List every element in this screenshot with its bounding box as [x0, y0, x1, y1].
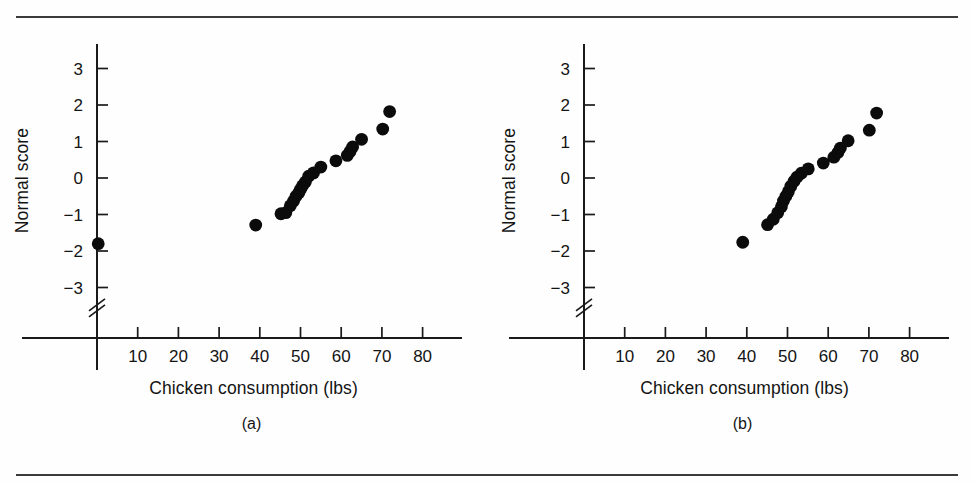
svg-text:60: 60 — [332, 347, 351, 366]
svg-text:−2: −2 — [551, 242, 570, 261]
svg-text:20: 20 — [169, 347, 188, 366]
svg-text:1: 1 — [561, 133, 570, 152]
data-point — [842, 134, 855, 147]
data-point — [870, 107, 883, 120]
svg-text:40: 40 — [737, 347, 756, 366]
svg-text:3: 3 — [561, 60, 570, 79]
svg-text:30: 30 — [697, 347, 716, 366]
data-point — [383, 105, 396, 118]
svg-text:10: 10 — [128, 347, 147, 366]
y-axis-label-a: Normal score — [12, 81, 33, 281]
svg-text:0: 0 — [74, 169, 83, 188]
svg-text:10: 10 — [615, 347, 634, 366]
svg-text:50: 50 — [778, 347, 797, 366]
data-point — [330, 154, 343, 167]
svg-text:0: 0 — [561, 169, 570, 188]
data-point — [802, 162, 815, 175]
data-point — [736, 236, 749, 249]
svg-text:3: 3 — [74, 60, 83, 79]
figure-normal-probability-plots: −3−2−101231020304050607080 Normal score … — [0, 0, 973, 483]
panel-b: −3−2−101231020304050607080 Normal score … — [487, 0, 973, 483]
panel-caption-b: (b) — [499, 415, 973, 433]
data-point — [249, 219, 262, 232]
svg-text:−3: −3 — [551, 279, 570, 298]
svg-text:40: 40 — [250, 347, 269, 366]
svg-text:1: 1 — [74, 133, 83, 152]
x-axis-label-a: Chicken consumption (lbs) — [10, 378, 497, 399]
scatter-plot-a: −3−2−101231020304050607080 — [0, 0, 487, 400]
svg-text:80: 80 — [900, 347, 919, 366]
panel-caption-a: (a) — [8, 415, 495, 433]
data-point — [863, 124, 876, 137]
svg-text:70: 70 — [372, 347, 391, 366]
svg-text:−1: −1 — [551, 206, 570, 225]
svg-text:2: 2 — [74, 96, 83, 115]
x-axis-label-b: Chicken consumption (lbs) — [501, 378, 973, 399]
data-point-group — [736, 107, 883, 249]
y-axis-label-b: Normal score — [499, 81, 520, 281]
svg-text:20: 20 — [656, 347, 675, 366]
svg-text:−3: −3 — [64, 279, 83, 298]
scatter-plot-b: −3−2−101231020304050607080 — [487, 0, 973, 400]
data-point — [376, 123, 389, 136]
data-point — [92, 237, 105, 250]
svg-text:30: 30 — [210, 347, 229, 366]
svg-text:80: 80 — [413, 347, 432, 366]
data-point-group — [92, 105, 396, 250]
svg-text:−1: −1 — [64, 206, 83, 225]
svg-text:−2: −2 — [64, 242, 83, 261]
svg-text:50: 50 — [291, 347, 310, 366]
svg-text:60: 60 — [819, 347, 838, 366]
svg-text:2: 2 — [561, 96, 570, 115]
data-point — [355, 133, 368, 146]
svg-text:70: 70 — [859, 347, 878, 366]
data-point — [314, 161, 327, 174]
panel-a: −3−2−101231020304050607080 Normal score … — [0, 0, 487, 483]
